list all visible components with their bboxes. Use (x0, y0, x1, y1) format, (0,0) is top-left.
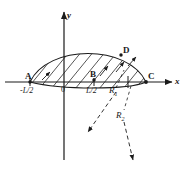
tick-label-neg-half-L: -L/2 (20, 87, 33, 95)
x-axis-label: x (175, 77, 180, 86)
point-label-C: C (148, 72, 155, 81)
radius-label-R1: R1 (109, 86, 118, 97)
figure-container: y x 0 A B C D -L/2 L/2 R1 R2 (0, 0, 189, 177)
radius-label-R2: R2 (116, 111, 125, 122)
leader-line-R1 (88, 92, 116, 132)
leader-stub-R2 (124, 86, 131, 110)
tick-label-pos-half-L: L/2 (86, 87, 97, 95)
radius-label-R1-sub: 1 (115, 91, 118, 97)
hatch-fill (6, 34, 189, 100)
point-label-D: D (123, 46, 130, 55)
origin-label: 0 (61, 86, 65, 94)
radius-label-R2-sub: 2 (122, 116, 125, 122)
leader-line-R2 (124, 122, 133, 160)
point-label-B: B (90, 70, 96, 79)
y-axis-label: y (67, 11, 71, 20)
point-label-A: A (25, 72, 32, 81)
